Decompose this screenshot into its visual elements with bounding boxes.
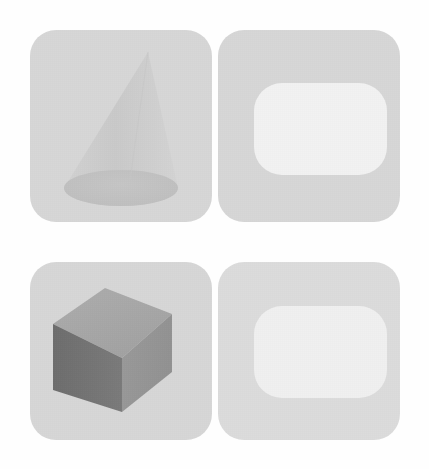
plate-panel-bottom [218,262,400,440]
rounded-plate-shape [254,83,387,175]
plate-panel-top [218,30,400,222]
cube-shape [30,262,212,440]
cone-panel [30,30,212,222]
image-canvas [0,0,429,469]
cone-shape [30,30,212,222]
cone-base-ellipse [64,170,178,206]
rounded-plate-shape [254,306,387,398]
cube-panel [30,262,212,440]
